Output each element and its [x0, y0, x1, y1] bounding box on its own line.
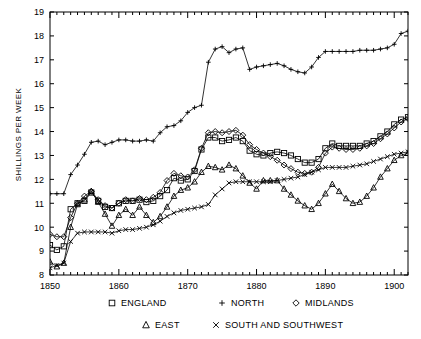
- y-tick-label: 18: [34, 31, 44, 41]
- y-tick-label: 10: [34, 223, 44, 233]
- y-tick-label: 16: [34, 79, 44, 89]
- x-tick-label: 1900: [384, 281, 404, 291]
- y-tick-label: 13: [34, 151, 44, 161]
- series-east: [47, 150, 411, 269]
- marker-square: [109, 300, 115, 306]
- x-tick-label: 1850: [40, 281, 60, 291]
- x-tick-label: 1860: [109, 281, 129, 291]
- line-chart-plot: 8910111213141516171819185018601870188018…: [0, 0, 421, 339]
- marker-diamond: [293, 300, 299, 306]
- series-line: [50, 118, 408, 236]
- legend-item-north[interactable]: NORTH: [219, 298, 264, 308]
- marker-triangle: [143, 321, 150, 327]
- legend-label: EAST: [155, 320, 180, 330]
- y-tick-label: 12: [34, 175, 44, 185]
- legend-item-east[interactable]: EAST: [143, 320, 180, 330]
- legend-label: NORTH: [231, 298, 264, 308]
- legend-item-south-and-southwest[interactable]: SOUTH AND SOUTHWEST: [213, 320, 343, 330]
- y-tick-label: 19: [34, 7, 44, 17]
- series-midlands: [47, 115, 411, 239]
- y-tick-label: 15: [34, 103, 44, 113]
- legend-label: SOUTH AND SOUTHWEST: [225, 320, 343, 330]
- y-tick-label: 14: [34, 127, 44, 137]
- series-line: [50, 31, 408, 194]
- y-tick-label: 8: [39, 270, 44, 280]
- y-tick-label: 9: [39, 246, 44, 256]
- x-tick-label: 1870: [178, 281, 198, 291]
- x-tick-label: 1880: [247, 281, 267, 291]
- chart-container: SHILLINGS PER WEEK 891011121314151617181…: [0, 0, 421, 339]
- legend-label: ENGLAND: [121, 298, 167, 308]
- series-north: [48, 29, 411, 196]
- x-tick-label: 1890: [315, 281, 335, 291]
- legend-item-england[interactable]: ENGLAND: [109, 298, 167, 308]
- legend-label: MIDLANDS: [305, 298, 354, 308]
- y-tick-label: 11: [35, 199, 44, 209]
- y-tick-label: 17: [34, 55, 44, 65]
- legend-item-midlands[interactable]: MIDLANDS: [293, 298, 354, 308]
